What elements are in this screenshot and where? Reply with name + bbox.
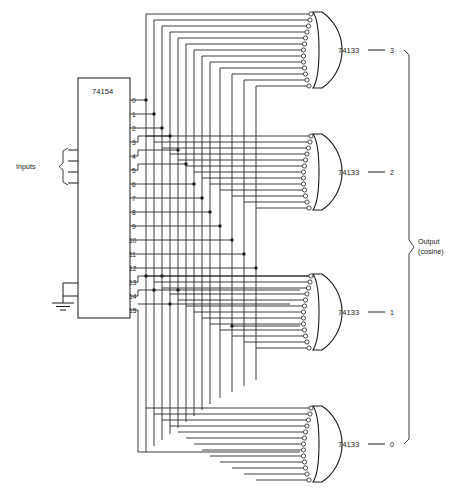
diagram-svg: Inputs A B C D G 1 G 2 74154 0 1 2 3 4 5… [0, 0, 458, 496]
pin-label-6: 6 [132, 181, 136, 188]
gate-bit3-part-number: 74133 [338, 46, 359, 55]
pin-label-7: 7 [132, 195, 136, 202]
junction-dot-1 [152, 112, 155, 115]
pin-label-9: 9 [132, 223, 136, 230]
inputs-brace [59, 148, 68, 185]
inputs-group: Inputs A B C D [16, 146, 86, 188]
nand-gate-bit1[interactable]: 74133 1 [301, 274, 394, 350]
junction-dot-12 [254, 266, 257, 269]
decoder-body [78, 78, 130, 318]
net-pin-14 [130, 290, 300, 296]
vertical-bus-lines [146, 14, 256, 452]
gate-bit2-part-number: 74133 [338, 168, 359, 177]
pin-label-8: 8 [132, 209, 136, 216]
gate-bit1-input-wires [146, 276, 310, 348]
junction-dot-5 [184, 162, 187, 165]
pin-label-3: 3 [132, 139, 136, 146]
circuit-diagram-canvas: Inputs A B C D G 1 G 2 74154 0 1 2 3 4 5… [0, 0, 458, 496]
junction-dot-6 [192, 182, 195, 185]
junction-dot-7 [200, 196, 203, 199]
gate-bit1-input-bubbles [301, 274, 313, 350]
gate-bit0-input-wires [146, 408, 310, 480]
net-pin-15 [130, 310, 300, 452]
gate-bit0-output-label: 0 [390, 440, 394, 449]
pin-label-15: 15 [129, 307, 137, 314]
pin-label-0: 0 [132, 97, 136, 104]
gate-bit3-input-wires [146, 14, 310, 86]
decoder-74154[interactable]: 74154 [78, 78, 130, 318]
output-brace [404, 50, 414, 444]
junction-dot-14a [152, 288, 155, 291]
gate-bit0-part-number: 74133 [338, 440, 359, 449]
junction-dot-14b [176, 288, 179, 291]
gate-bit0-input-bubbles [301, 406, 313, 482]
decoder-part-number: 74154 [92, 87, 113, 96]
nand-gate-bit3[interactable]: 74133 3 [301, 12, 394, 88]
gate-bit1-output-label: 1 [390, 308, 394, 317]
pin-label-4: 4 [132, 153, 136, 160]
pin-label-5: 5 [132, 167, 136, 174]
net-pin-13 [130, 276, 320, 282]
pin-label-14: 14 [129, 293, 137, 300]
junction-dot-9 [218, 224, 221, 227]
junction-dot-11 [242, 252, 245, 255]
nand-gate-bit2[interactable]: 74133 2 [301, 134, 394, 210]
pin-label-12: 12 [129, 265, 137, 272]
inputs-label: Inputs [16, 162, 36, 171]
pin-label-10: 10 [129, 237, 137, 244]
gate-bit2-input-wires [146, 136, 310, 208]
pin-label-13: 13 [129, 279, 137, 286]
gate-bit3-input-bubbles [301, 12, 313, 88]
gate-bit2-input-bubbles [301, 134, 313, 210]
junction-dot-2 [160, 126, 163, 129]
nand-gate-bit0[interactable]: 74133 0 [301, 406, 394, 482]
decoder-output-wires [130, 98, 320, 452]
junction-dot-10 [230, 238, 233, 241]
gate-bit2-output-label: 2 [390, 168, 394, 177]
pin-label-2: 2 [132, 125, 136, 132]
gate-bit1-part-number: 74133 [338, 308, 359, 317]
junction-dot-0 [144, 98, 147, 101]
pin-label-1: 1 [132, 111, 136, 118]
output-label-line1: Output [418, 237, 440, 246]
gate-bit3-output-label: 3 [390, 46, 394, 55]
net-pin-3 [130, 136, 170, 142]
output-bus-group: Output (cosine) [404, 50, 444, 444]
pin-label-11: 11 [129, 251, 136, 258]
junction-dot-4 [176, 148, 179, 151]
junction-dot-8 [208, 210, 211, 213]
output-label-line2: (cosine) [418, 247, 444, 256]
